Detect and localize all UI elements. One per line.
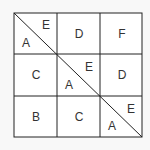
cell-r0c2: F <box>118 28 125 40</box>
cell-r0c1: D <box>75 28 84 40</box>
cell-r0c0-upper: E <box>42 19 50 31</box>
grid-diagram <box>0 0 150 150</box>
cell-r2c0: B <box>32 111 40 123</box>
cell-r1c1-upper: E <box>85 61 93 73</box>
cell-r0c0-lower: A <box>22 37 30 49</box>
cell-r1c1-lower: A <box>65 79 73 91</box>
cell-r1c0: C <box>32 69 41 81</box>
cell-r1c2: D <box>118 69 127 81</box>
cell-r2c2-upper: E <box>127 103 135 115</box>
cell-r2c1: C <box>75 111 84 123</box>
cell-r2c2-lower: A <box>108 120 116 132</box>
